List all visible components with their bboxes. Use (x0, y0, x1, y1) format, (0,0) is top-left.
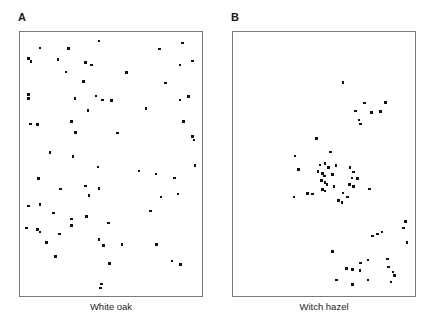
data-point (182, 120, 185, 123)
data-point (36, 123, 39, 126)
data-point (98, 238, 101, 241)
data-point (346, 196, 349, 199)
data-point (101, 99, 104, 102)
data-point (45, 241, 48, 244)
panel-a-axis-label: White oak (19, 302, 203, 312)
data-point (358, 119, 361, 122)
data-point (110, 99, 113, 102)
data-point (57, 58, 60, 61)
data-point (319, 164, 322, 167)
data-point (348, 183, 351, 186)
plot-area-white-oak (19, 31, 203, 297)
data-point (54, 255, 57, 258)
data-point (25, 227, 28, 230)
data-point (293, 196, 296, 199)
data-point (404, 220, 407, 223)
data-point (356, 177, 359, 180)
data-point (379, 110, 382, 113)
data-point (342, 81, 345, 84)
data-point (333, 185, 336, 188)
data-point (97, 166, 100, 169)
data-point (370, 111, 373, 114)
data-point (352, 171, 355, 174)
data-point (371, 235, 374, 238)
data-point (376, 233, 379, 236)
data-point (351, 177, 354, 180)
data-point (100, 283, 103, 286)
data-point (294, 155, 297, 158)
data-point (116, 132, 119, 135)
data-point (194, 164, 197, 167)
data-point (90, 64, 93, 67)
data-point (179, 263, 182, 266)
data-point (351, 283, 354, 286)
data-point (354, 110, 357, 113)
data-point (164, 82, 167, 85)
data-point (87, 109, 90, 112)
data-point (138, 170, 141, 173)
data-point (27, 97, 30, 100)
data-point (65, 71, 68, 74)
data-point (381, 231, 384, 234)
panel-a-letter: A (18, 12, 26, 23)
data-point (49, 151, 52, 154)
data-point (359, 269, 362, 272)
data-point (39, 231, 42, 234)
data-point (297, 168, 300, 171)
data-point (155, 243, 158, 246)
data-point (179, 64, 182, 67)
data-point (39, 47, 42, 50)
data-point (84, 185, 87, 188)
scatter-figure: A White oak B Witch hazel (0, 0, 433, 326)
data-point (359, 123, 362, 126)
data-point (39, 203, 42, 206)
data-point (352, 185, 355, 188)
data-point (145, 107, 148, 110)
data-point (323, 175, 326, 178)
data-point (390, 281, 393, 284)
data-point (329, 151, 332, 154)
data-point (351, 268, 354, 271)
data-point (59, 188, 62, 191)
data-point (191, 60, 194, 63)
data-point (368, 188, 371, 191)
data-point (349, 166, 352, 169)
data-point (311, 193, 314, 196)
data-point (37, 177, 40, 180)
data-point (337, 199, 340, 202)
data-point (158, 48, 161, 51)
data-point (342, 192, 345, 195)
data-point (58, 233, 61, 236)
data-point (125, 71, 128, 74)
data-point (173, 177, 176, 180)
data-point (341, 201, 344, 204)
data-point (335, 164, 338, 167)
data-point (99, 287, 102, 290)
data-point (179, 99, 182, 102)
data-point (306, 192, 309, 195)
data-point (102, 244, 105, 247)
data-point (30, 60, 33, 63)
data-point (70, 224, 73, 227)
data-point (367, 259, 370, 262)
data-point (155, 173, 158, 176)
panel-b-letter: B (231, 12, 239, 23)
data-point (324, 190, 327, 193)
data-point (367, 279, 370, 282)
data-point (331, 173, 334, 176)
data-point (181, 42, 184, 45)
data-point (335, 279, 338, 282)
data-point (160, 196, 163, 199)
data-point (384, 101, 387, 104)
data-point (88, 194, 91, 197)
data-point (393, 274, 396, 277)
data-point (315, 137, 318, 140)
data-point (363, 102, 366, 105)
data-point (392, 271, 395, 274)
data-point (320, 179, 323, 182)
data-point (108, 262, 111, 265)
data-point (331, 250, 334, 253)
data-point (187, 95, 190, 98)
plot-area-witch-hazel (232, 31, 416, 297)
data-point (98, 40, 101, 43)
